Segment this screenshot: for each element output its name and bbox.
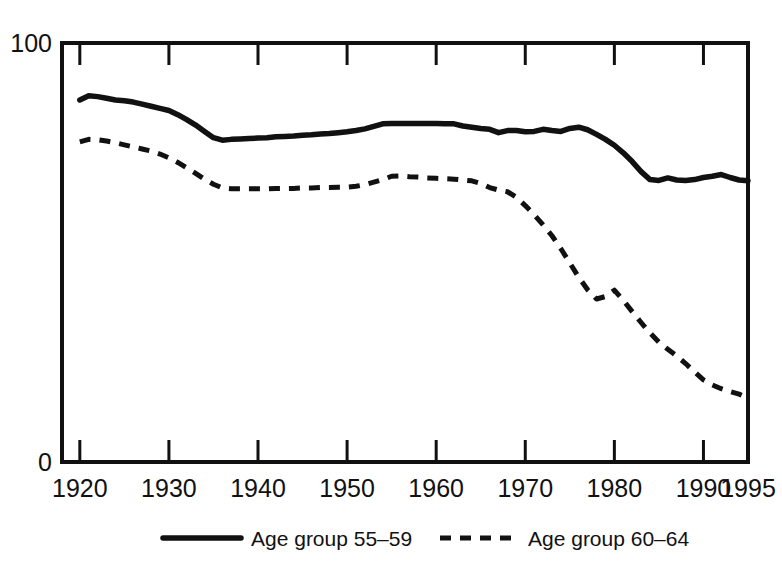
x-axis-tick-label-1980: 1980: [587, 474, 643, 502]
x-axis-tick-label-1950: 1950: [319, 474, 375, 502]
x-axis-tick-label-1960: 1960: [408, 474, 464, 502]
x-axis-tick-label-1995: 1995: [720, 474, 776, 502]
chart-background: [0, 0, 782, 570]
legend-label-1: Age group 55–59: [251, 527, 412, 550]
x-axis-tick-label-1930: 1930: [141, 474, 197, 502]
legend-label-2: Age group 60–64: [528, 527, 689, 550]
y-axis-tick-label-100: 100: [10, 29, 52, 57]
x-axis-tick-label-1970: 1970: [497, 474, 553, 502]
chart-figure: 1000 19201930194019501960197019801990199…: [0, 0, 782, 570]
x-axis-tick-label-1920: 1920: [52, 474, 108, 502]
y-axis-tick-label-0: 0: [38, 448, 52, 476]
x-axis-tick-label-1940: 1940: [230, 474, 286, 502]
labor-force-participation-line-chart: 1000 19201930194019501960197019801990199…: [0, 0, 782, 570]
